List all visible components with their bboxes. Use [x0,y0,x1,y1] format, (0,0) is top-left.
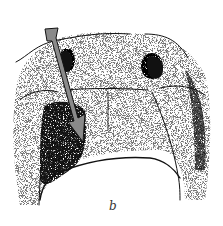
stippled-drawing [0,0,223,226]
panel-label: b [109,199,117,213]
illustration: b [0,0,223,226]
